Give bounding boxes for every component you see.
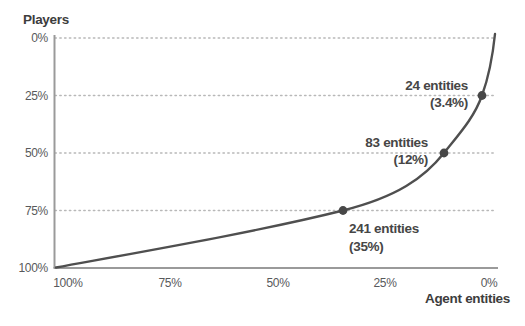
- data-point-12pct: [440, 149, 449, 158]
- x-tick-50pct: 50%: [266, 276, 290, 290]
- annotation-83-entities-line1: 83 entities: [365, 135, 428, 150]
- players-concentration-curve: [56, 34, 495, 268]
- x-tick-75pct: 75%: [158, 276, 182, 290]
- y-tick-75pct: 75%: [25, 204, 49, 218]
- y-tick-0pct: 0%: [31, 31, 48, 45]
- x-axis-title: Agent entities: [425, 291, 510, 306]
- y-axis-title: Players: [23, 12, 69, 27]
- annotation-24-entities-line1: 24 entities: [405, 78, 468, 93]
- annotation-241-entities-line2: (35%): [349, 239, 384, 254]
- y-tick-25pct: 25%: [25, 89, 49, 103]
- x-tick-25pct: 25%: [373, 276, 397, 290]
- chart-canvas: Players Agent entities 0% 25% 50% 75% 10…: [0, 0, 525, 326]
- chart-svg: Players Agent entities 0% 25% 50% 75% 10…: [0, 0, 525, 326]
- y-tick-100pct: 100%: [19, 261, 49, 275]
- data-point-35pct: [339, 206, 348, 215]
- annotation-24-entities-line2: (3.4%): [430, 95, 468, 110]
- y-tick-50pct: 50%: [25, 146, 49, 160]
- x-tick-100pct: 100%: [53, 276, 83, 290]
- annotation-83-entities-line2: (12%): [393, 152, 428, 167]
- data-point-3.4pct: [478, 91, 487, 100]
- x-tick-0pct: 0%: [481, 276, 498, 290]
- annotation-241-entities-line1: 241 entities: [349, 221, 419, 236]
